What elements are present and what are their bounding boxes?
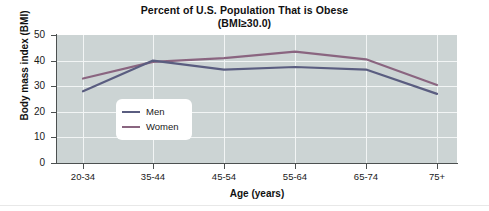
- y-tick-label-0: 0: [19, 158, 45, 168]
- y-tick-20: [51, 112, 56, 113]
- legend-swatch-women: [122, 126, 140, 128]
- legend-label-men: Men: [146, 106, 164, 117]
- plot-area: [57, 35, 457, 163]
- chart-legend: Men Women: [116, 99, 192, 140]
- y-axis-line: [56, 34, 57, 164]
- y-tick-40: [51, 61, 56, 62]
- chart-figure: Percent of U.S. Population That is Obese…: [0, 0, 489, 211]
- x-tick-label-55-64: 55-64: [265, 171, 325, 182]
- x-tick-label-35-44: 35-44: [123, 171, 183, 182]
- x-tick-35-44: [153, 164, 154, 169]
- y-tick-10: [51, 137, 56, 138]
- series-plot: [57, 35, 457, 163]
- x-axis-line: [56, 163, 458, 164]
- x-tick-75plus: [437, 164, 438, 169]
- y-tick-30: [51, 86, 56, 87]
- y-tick-50: [51, 35, 56, 36]
- x-tick-65-74: [366, 164, 367, 169]
- legend-item-men: Men: [122, 104, 186, 119]
- x-tick-20-34: [83, 164, 84, 169]
- chart-subtitle: (BMI≥30.0): [0, 17, 489, 30]
- legend-item-women: Women: [122, 119, 186, 134]
- y-tick-0: [51, 163, 56, 164]
- x-tick-label-20-34: 20-34: [53, 171, 113, 182]
- legend-label-women: Women: [146, 121, 179, 132]
- chart-title: Percent of U.S. Population That is Obese: [0, 4, 489, 17]
- y-axis-title: Body mass index (BMI): [19, 0, 30, 136]
- x-tick-45-54: [224, 164, 225, 169]
- chart-title-block: Percent of U.S. Population That is Obese…: [0, 4, 489, 30]
- x-tick-label-45-54: 45-54: [194, 171, 254, 182]
- legend-swatch-men: [122, 111, 140, 113]
- x-tick-label-75plus: 75+: [407, 171, 467, 182]
- x-axis-title: Age (years): [57, 188, 457, 199]
- x-tick-55-64: [295, 164, 296, 169]
- x-tick-label-65-74: 65-74: [336, 171, 396, 182]
- figure-bottom-rule: [0, 205, 489, 206]
